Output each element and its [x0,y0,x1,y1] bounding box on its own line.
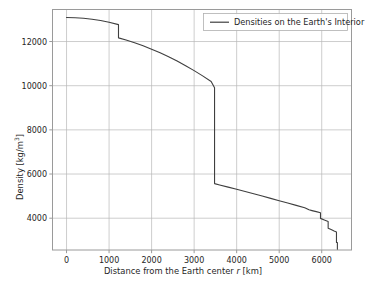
x-tick-label: 1000 [99,256,119,265]
chart-legend[interactable]: Densities on the Earth's Interior [204,14,365,31]
x-tick-label: 3000 [184,256,204,265]
x-tick-label: 2000 [141,256,161,265]
y-axis-label: Density [kg/m3] [13,134,25,200]
density-line-chart: 0100020003000400050006000 40006000800010… [0,0,366,289]
x-tick-label: 0 [64,256,69,265]
x-axis-tick-labels: 0100020003000400050006000 [64,256,332,265]
legend-label: Densities on the Earth's Interior [234,17,365,27]
x-tick-label: 6000 [312,256,332,265]
chart-figure: 0100020003000400050006000 40006000800010… [0,0,366,289]
x-axis-label-prefix: Distance from the Earth center [104,266,237,276]
x-tick-label: 5000 [269,256,289,265]
x-axis-label: Distance from the Earth center r [km] [0,266,366,276]
x-tick-label: 4000 [226,256,246,265]
y-tick-label: 10000 [22,82,47,91]
y-tick-label: 4000 [27,214,47,223]
y-tick-label: 8000 [27,126,47,135]
x-axis-label-suffix: [km] [240,266,262,276]
y-axis-tick-labels: 4000600080001000012000 [22,38,47,224]
y-tick-label: 12000 [22,38,47,47]
y-tick-label: 6000 [27,170,47,179]
